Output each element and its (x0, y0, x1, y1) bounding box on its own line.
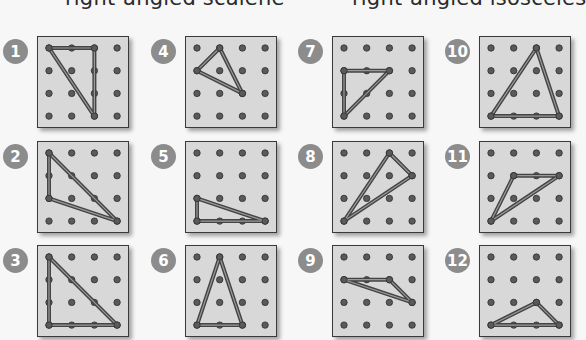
vertex-peg-icon (217, 254, 223, 260)
geoboard (37, 36, 129, 128)
problem-number-badge: 5 (151, 144, 176, 169)
peg-icon (511, 68, 517, 74)
vertex-peg-icon (386, 277, 392, 283)
peg-icon (91, 218, 97, 224)
geoboard-canvas (186, 142, 276, 232)
vertex-peg-icon (341, 113, 347, 119)
peg-icon (488, 150, 494, 156)
problem-number-badge: 10 (445, 39, 470, 64)
peg-icon (364, 173, 370, 179)
peg-icon (341, 150, 347, 156)
peg-icon (409, 150, 415, 156)
peg-icon (69, 195, 75, 201)
vertex-peg-icon (46, 45, 52, 51)
peg-icon (556, 195, 562, 201)
peg-icon (409, 218, 415, 224)
vertex-peg-icon (556, 113, 562, 119)
peg-icon (364, 218, 370, 224)
peg-icon (386, 90, 392, 96)
vertex-peg-icon (194, 322, 200, 328)
peg-icon (194, 254, 200, 260)
peg-icon (386, 322, 392, 328)
vertex-peg-icon (46, 254, 52, 260)
peg-icon (511, 254, 517, 260)
peg-icon (114, 195, 120, 201)
peg-icon (556, 90, 562, 96)
peg-icon (114, 299, 120, 305)
vertex-peg-icon (533, 299, 539, 305)
peg-icon (194, 173, 200, 179)
peg-icon (533, 90, 539, 96)
geoboard-canvas (333, 37, 423, 127)
peg-icon (409, 277, 415, 283)
peg-icon (341, 195, 347, 201)
peg-icon (341, 322, 347, 328)
peg-icon (488, 195, 494, 201)
geoboard (185, 245, 277, 337)
peg-icon (533, 218, 539, 224)
peg-icon (239, 113, 245, 119)
vertex-peg-icon (46, 150, 52, 156)
peg-icon (217, 299, 223, 305)
vertex-peg-icon (194, 195, 200, 201)
peg-icon (556, 299, 562, 305)
vertex-peg-icon (114, 322, 120, 328)
peg-icon (262, 195, 268, 201)
problem-number-badge: 4 (151, 39, 176, 64)
geoboard-canvas (186, 37, 276, 127)
peg-icon (409, 68, 415, 74)
rubber-band-highlight (197, 198, 265, 221)
rubber-band-highlight (197, 257, 242, 325)
vertex-peg-icon (409, 173, 415, 179)
geoboard-canvas (480, 142, 570, 232)
problem-number-badge: 7 (298, 39, 323, 64)
peg-icon (262, 299, 268, 305)
peg-icon (556, 218, 562, 224)
peg-icon (217, 90, 223, 96)
peg-icon (341, 45, 347, 51)
geoboard (332, 141, 424, 233)
peg-icon (69, 150, 75, 156)
peg-icon (409, 90, 415, 96)
vertex-peg-icon (91, 113, 97, 119)
problem-number-badge: 6 (151, 248, 176, 273)
peg-icon (533, 277, 539, 283)
peg-icon (556, 254, 562, 260)
vertex-peg-icon (194, 68, 200, 74)
geoboard (479, 245, 571, 337)
geoboard-canvas (38, 142, 128, 232)
vertex-peg-icon (91, 45, 97, 51)
peg-icon (409, 113, 415, 119)
peg-icon (386, 195, 392, 201)
peg-icon (556, 277, 562, 283)
peg-icon (262, 90, 268, 96)
peg-icon (114, 150, 120, 156)
vertex-peg-icon (46, 195, 52, 201)
problem-number-badge: 9 (298, 248, 323, 273)
peg-icon (239, 195, 245, 201)
peg-icon (364, 299, 370, 305)
peg-icon (114, 45, 120, 51)
peg-icon (511, 299, 517, 305)
peg-icon (511, 150, 517, 156)
geoboard-canvas (333, 246, 423, 336)
peg-icon (262, 322, 268, 328)
rubber-band-triangle (491, 302, 559, 325)
peg-icon (409, 45, 415, 51)
rubber-band-highlight (49, 257, 117, 325)
geoboard (37, 141, 129, 233)
peg-icon (114, 173, 120, 179)
peg-icon (69, 68, 75, 74)
vertex-peg-icon (511, 173, 517, 179)
problem-number-badge: 11 (445, 144, 470, 169)
peg-icon (114, 277, 120, 283)
peg-icon (488, 173, 494, 179)
peg-icon (217, 195, 223, 201)
peg-icon (488, 45, 494, 51)
peg-icon (217, 113, 223, 119)
geoboard (185, 141, 277, 233)
problem-number-badge: 2 (3, 144, 28, 169)
vertex-peg-icon (217, 45, 223, 51)
rubber-band-highlight (49, 48, 94, 116)
peg-icon (46, 68, 52, 74)
